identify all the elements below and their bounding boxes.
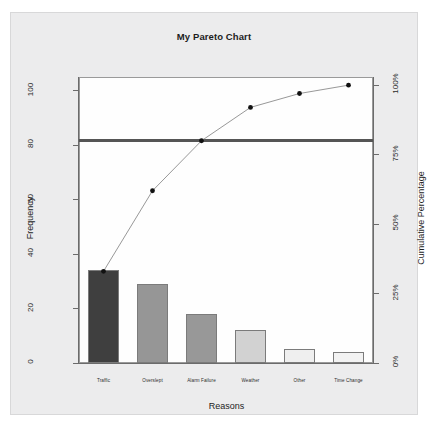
y-tick-left xyxy=(73,199,78,200)
y-tick-label-right: 0% xyxy=(391,347,400,377)
cumulative-line-path xyxy=(104,85,349,271)
category-label-overslept: Overslept xyxy=(128,378,177,383)
x-axis-line xyxy=(79,363,374,364)
y-tick-label-left: 0 xyxy=(26,349,35,375)
y-tick-label-left: 80 xyxy=(26,131,35,157)
chart-title: My Pareto Chart xyxy=(11,31,417,42)
y-tick-right xyxy=(374,224,379,225)
y-axis-right-title: Cumulative Percentage xyxy=(416,158,426,278)
category-label-weather: Weather xyxy=(226,378,275,383)
cumulative-line-chart xyxy=(79,77,373,363)
y-tick-right xyxy=(374,363,379,364)
y-tick-label-right: 75% xyxy=(391,138,400,168)
y-tick-left xyxy=(73,145,78,146)
cumulative-data-points xyxy=(101,83,351,274)
y-tick-label-right: 50% xyxy=(391,208,400,238)
cumulative-point-time-change[interactable] xyxy=(346,83,351,88)
cumulative-point-alarm-failure[interactable] xyxy=(199,138,204,143)
cumulative-point-traffic[interactable] xyxy=(101,269,106,274)
cumulative-point-other[interactable] xyxy=(297,91,302,96)
cumulative-point-overslept[interactable] xyxy=(150,188,155,193)
y-tick-right xyxy=(374,85,379,86)
y-axis-left-title: Frequency xyxy=(25,173,35,263)
chart-card: My Pareto Chart 020406080100 0%25%50%75%… xyxy=(10,12,418,415)
y-tick-right xyxy=(374,154,379,155)
category-label-time-change: Time Change xyxy=(324,378,373,383)
cumulative-point-weather[interactable] xyxy=(248,105,253,110)
y-tick-left xyxy=(73,308,78,309)
category-label-traffic: Traffic xyxy=(79,378,128,383)
y-tick-left xyxy=(73,363,78,364)
y-tick-left xyxy=(73,254,78,255)
y-tick-label-right: 100% xyxy=(391,69,400,99)
x-axis-title: Reasons xyxy=(79,401,374,411)
y-axis-right-line xyxy=(373,77,374,364)
y-tick-right xyxy=(374,293,379,294)
category-label-other: Other xyxy=(275,378,324,383)
y-tick-label-left: 100 xyxy=(26,76,35,102)
y-tick-left xyxy=(73,90,78,91)
y-tick-label-right: 25% xyxy=(391,277,400,307)
y-tick-label-left: 20 xyxy=(26,294,35,320)
category-label-alarm-failure: Alarm Failure xyxy=(177,378,226,383)
